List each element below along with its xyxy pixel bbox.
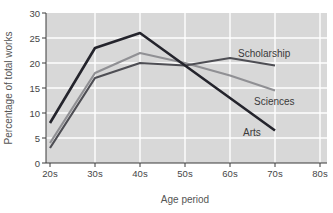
chart-figure: 05101520253020s30s40s50s60s70s80s Percen… bbox=[0, 0, 333, 213]
y-tick-label: 0 bbox=[35, 158, 40, 169]
y-tick-label: 25 bbox=[29, 33, 40, 44]
y-tick-label: 30 bbox=[29, 8, 40, 19]
y-axis-title: Percentage of total works bbox=[3, 32, 14, 145]
y-tick-label: 10 bbox=[29, 108, 40, 119]
series-label-scholarship: Scholarship bbox=[238, 48, 291, 59]
x-axis-title: Age period bbox=[161, 194, 209, 205]
y-tick-label: 20 bbox=[29, 58, 40, 69]
x-tick-label: 80s bbox=[312, 168, 328, 179]
line-chart: 05101520253020s30s40s50s60s70s80s Percen… bbox=[0, 0, 333, 213]
y-tick-label: 5 bbox=[35, 133, 40, 144]
plot-area: 05101520253020s30s40s50s60s70s80s bbox=[29, 8, 327, 180]
y-tick-label: 15 bbox=[29, 83, 40, 94]
series-label-sciences: Sciences bbox=[254, 96, 295, 107]
x-tick-label: 70s bbox=[267, 168, 283, 179]
x-tick-label: 20s bbox=[42, 168, 58, 179]
x-tick-label: 50s bbox=[177, 168, 193, 179]
x-tick-label: 60s bbox=[222, 168, 238, 179]
x-tick-label: 30s bbox=[87, 168, 103, 179]
x-tick-label: 40s bbox=[132, 168, 148, 179]
series-label-arts: Arts bbox=[243, 127, 261, 138]
